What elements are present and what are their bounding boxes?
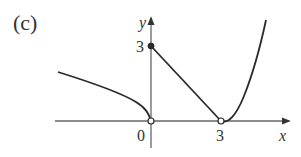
y-axis-label: y — [137, 14, 147, 32]
right-branch-parabola — [221, 20, 266, 122]
x-axis-label: x — [278, 127, 286, 144]
open-circle-marker-origin — [148, 118, 154, 124]
x-tick-label-3: 3 — [216, 127, 224, 144]
function-graph-figure: (c) x y 0 3 3 — [0, 0, 301, 157]
x-tick-label-0: 0 — [137, 127, 145, 144]
middle-line-segment — [151, 46, 221, 121]
y-tick-label-3: 3 — [136, 38, 144, 55]
filled-dot-marker — [148, 43, 154, 49]
left-branch-curve — [58, 72, 151, 121]
panel-label: (c) — [13, 10, 37, 35]
open-circle-marker-x3 — [218, 118, 224, 124]
graph-canvas: (c) x y 0 3 3 — [0, 0, 301, 157]
